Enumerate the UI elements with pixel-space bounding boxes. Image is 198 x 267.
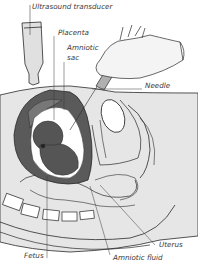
- label-fetus: Fetus: [24, 252, 44, 259]
- anatomy-illustration: [0, 0, 198, 267]
- label-uterus: Uterus: [159, 241, 183, 248]
- ultrasound-transducer-shape: [22, 5, 43, 85]
- amniocentesis-diagram: Ultrasound transducer Placenta Amniotic …: [0, 0, 198, 267]
- label-amniotic-sac-line2: sac: [67, 54, 79, 61]
- label-amniotic-sac-line1: Amniotic: [67, 44, 99, 51]
- label-placenta: Placenta: [58, 29, 89, 36]
- label-ultrasound-transducer: Ultrasound transducer: [32, 3, 112, 10]
- label-needle: Needle: [145, 82, 170, 89]
- label-amniotic-fluid: Amniotic fluid: [113, 254, 163, 261]
